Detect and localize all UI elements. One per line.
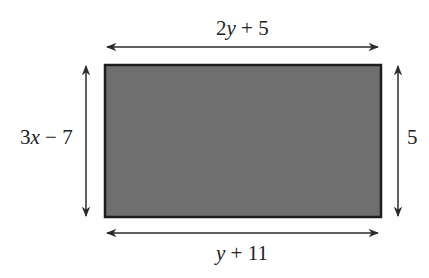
- bottom-label: y + 11: [216, 243, 268, 264]
- shaded-rectangle: [105, 65, 381, 217]
- right-label: 5: [407, 127, 418, 148]
- left-label-rest: − 7: [40, 125, 73, 149]
- bottom-label-rest: + 11: [225, 241, 268, 265]
- bottom-label-var: y: [216, 241, 225, 265]
- top-label-var: y: [227, 16, 236, 40]
- top-label-coef: 2: [216, 16, 227, 40]
- right-label-value: 5: [407, 125, 418, 149]
- top-label-rest: + 5: [236, 16, 269, 40]
- left-label: 3x − 7: [20, 127, 73, 148]
- left-label-coef: 3: [20, 125, 31, 149]
- left-label-var: x: [31, 125, 40, 149]
- top-label: 2y + 5: [216, 18, 269, 39]
